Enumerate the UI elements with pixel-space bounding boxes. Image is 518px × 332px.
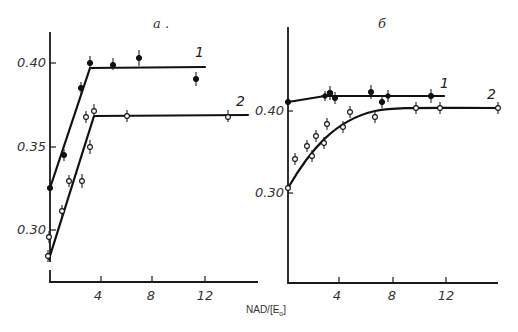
data-point xyxy=(373,111,378,123)
panel-a: a . 0.40 0.35 0.30 4 8 12 1 2 xyxy=(17,16,258,303)
data-point xyxy=(67,175,72,187)
data-point xyxy=(125,110,130,122)
panel-b-x-ticks: 4 8 12 xyxy=(333,277,454,303)
data-point xyxy=(496,102,501,114)
data-point xyxy=(379,96,384,108)
panel-a-ytick-035: 0.35 xyxy=(17,139,46,154)
panel-a-fit-2 xyxy=(49,115,248,259)
x-axis-label-close: ] xyxy=(283,304,286,315)
data-point xyxy=(314,130,319,142)
data-point xyxy=(414,102,419,114)
data-point xyxy=(136,50,141,66)
panel-b-xtick-8: 8 xyxy=(388,288,396,303)
x-axis-label: NAD/[Eo] xyxy=(246,304,286,317)
data-point xyxy=(285,99,290,104)
panel-a-xtick-8: 8 xyxy=(147,288,155,303)
panel-b-series-label-1: 1 xyxy=(440,75,449,91)
panel-a-xtick-12: 12 xyxy=(197,288,214,303)
panel-a-ytick-040: 0.40 xyxy=(17,55,46,70)
data-point xyxy=(293,153,298,165)
panel-a-fit-1 xyxy=(50,67,205,188)
panel-b-fit-2 xyxy=(288,108,498,188)
panel-b-ytick-040: 0.40 xyxy=(255,103,284,118)
data-point xyxy=(286,186,291,191)
data-point xyxy=(84,111,89,123)
panel-b-ytick-030: 0.30 xyxy=(255,185,284,200)
panel-a-label: a . xyxy=(153,16,169,31)
data-point xyxy=(325,118,330,130)
x-axis-label-main: NAD/[E xyxy=(246,304,280,315)
data-point xyxy=(226,110,231,122)
data-point xyxy=(305,140,310,152)
panel-a-xtick-4: 4 xyxy=(94,288,102,303)
panel-a-ytick-030: 0.30 xyxy=(17,222,46,237)
data-point xyxy=(348,106,353,118)
panel-a-x-ticks: 4 8 12 xyxy=(94,276,213,303)
panel-a-series-1-points xyxy=(47,50,198,194)
data-point xyxy=(193,72,198,86)
panel-b-label: б xyxy=(378,16,386,31)
data-point xyxy=(88,140,93,154)
panel-b-xtick-4: 4 xyxy=(333,288,341,303)
data-point xyxy=(386,90,391,102)
panel-b-fit-1 xyxy=(288,96,444,102)
panel-b-series-label-2: 2 xyxy=(487,86,496,102)
svg-text:NAD/[Eo]: NAD/[Eo] xyxy=(246,304,286,317)
panel-b-axes xyxy=(288,27,498,283)
panel-b: б 0.40 0.30 4 8 12 1 2 xyxy=(255,16,500,303)
data-point xyxy=(438,102,443,114)
data-point xyxy=(428,89,433,103)
figure: a . 0.40 0.35 0.30 4 8 12 1 2 xyxy=(0,0,518,332)
panel-b-xtick-12: 12 xyxy=(438,288,455,303)
data-point xyxy=(80,174,85,188)
panel-a-series-label-1: 1 xyxy=(195,44,204,60)
panel-a-series-label-2: 2 xyxy=(236,93,245,109)
